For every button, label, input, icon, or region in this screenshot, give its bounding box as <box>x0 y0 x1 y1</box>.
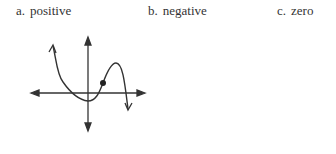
function-graph <box>0 0 336 154</box>
polynomial-curve <box>53 46 128 109</box>
curve-down-arrow-icon <box>125 103 132 110</box>
x-axis-left-arrow-icon <box>31 90 39 96</box>
marked-point <box>100 80 106 86</box>
x-axis-right-arrow-icon <box>137 90 145 96</box>
y-axis-up-arrow-icon <box>85 37 91 45</box>
y-axis-down-arrow-icon <box>85 123 91 131</box>
curve-up-arrow-icon <box>49 45 56 53</box>
